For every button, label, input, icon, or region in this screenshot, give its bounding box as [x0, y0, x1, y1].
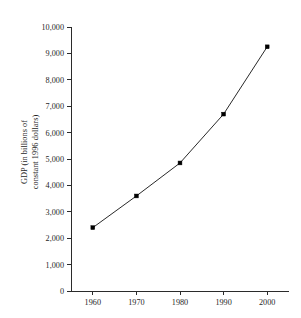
y-tick-label: 6,000 [46, 129, 64, 138]
chart-plot-area: GDP (in billions of constant 1996 dollar… [0, 0, 301, 318]
x-tick-label: 2000 [259, 298, 275, 307]
y-axis-title-line-1: GDP (in billions of [20, 120, 29, 184]
y-tick-label: 8,000 [46, 76, 64, 85]
gdp-data-line [93, 47, 267, 228]
y-tick-label: 0 [60, 287, 64, 296]
data-point-marker [178, 161, 182, 165]
y-axis-title-line-2: constant 1996 dollars) [31, 115, 40, 190]
data-point-marker [265, 45, 269, 49]
gdp-line-chart: GDP (in billions of constant 1996 dollar… [0, 0, 301, 318]
y-tick-label: 10,000 [41, 23, 64, 32]
data-point-marker [222, 112, 226, 116]
y-tick-label: 3,000 [46, 208, 64, 217]
y-axis-title: GDP (in billions of constant 1996 dollar… [20, 115, 40, 190]
x-tick-label: 1970 [128, 298, 144, 307]
x-tick-label: 1960 [85, 298, 101, 307]
gdp-data-markers [91, 45, 269, 230]
data-point-marker [135, 194, 139, 198]
y-tick-label: 7,000 [46, 102, 64, 111]
y-tick-label: 2,000 [46, 234, 64, 243]
y-tick-label: 9,000 [46, 49, 64, 58]
y-tick-label: 5,000 [46, 155, 64, 164]
x-axis-ticks: 19601970198019902000 [85, 291, 276, 307]
y-tick-label: 1,000 [46, 261, 64, 270]
y-tick-label: 4,000 [46, 181, 64, 190]
y-axis-ticks: 10,0009,0008,0007,0006,0005,0004,0003,00… [41, 23, 71, 296]
x-tick-label: 1980 [172, 298, 188, 307]
data-point-marker [91, 226, 95, 230]
x-tick-label: 1990 [215, 298, 231, 307]
